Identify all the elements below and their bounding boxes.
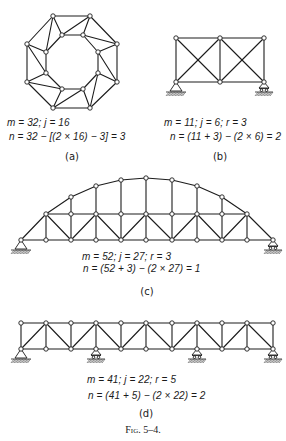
truss-member: [247, 323, 273, 349]
pin-joint-icon: [81, 33, 85, 37]
pin-joint-icon: [271, 321, 275, 325]
pin-joint-icon: [96, 71, 100, 75]
pin-joint-icon: [262, 36, 266, 40]
pin-joint-icon: [44, 321, 48, 325]
truss-member: [46, 323, 71, 349]
pin-joint-icon: [144, 238, 148, 242]
truss-member: [146, 214, 172, 240]
ground-hatch: [255, 92, 273, 96]
pin-joint-icon: [94, 347, 98, 351]
truss-member: [197, 186, 222, 197]
panel-c-equation: n = (52 + 3) − (2 × 27) = 1: [83, 263, 201, 275]
pin-joint-icon: [69, 195, 73, 199]
pin-joint-icon: [69, 321, 73, 325]
truss-member: [21, 323, 46, 349]
truss-member: [46, 16, 53, 52]
truss-member: [172, 214, 197, 240]
pin-joint-icon: [245, 212, 249, 216]
pin-joint-icon: [88, 14, 92, 18]
panel-b-label: (b): [213, 151, 227, 163]
truss-member: [90, 73, 98, 108]
truss-member: [71, 186, 96, 197]
pin-joint-icon: [25, 80, 29, 84]
pin-joint-icon: [119, 347, 123, 351]
pin-joint-icon: [44, 347, 48, 351]
truss-member: [172, 323, 197, 349]
pin-joint-icon: [81, 87, 85, 91]
pin-joint-icon: [245, 238, 249, 242]
truss-member: [83, 89, 90, 108]
truss-member: [96, 214, 121, 240]
pin-joint-icon: [174, 80, 178, 84]
pin-joint-icon: [144, 176, 148, 180]
pin-joint-icon: [44, 238, 48, 242]
truss-a: [25, 14, 119, 110]
pin-joint-icon: [220, 321, 224, 325]
pin-joint-icon: [262, 80, 266, 84]
truss-member: [172, 180, 197, 186]
truss-member: [46, 197, 71, 214]
pin-joint-icon: [19, 238, 23, 242]
truss-member: [98, 44, 117, 52]
panel-a-counts: m = 32; j = 16: [7, 117, 70, 129]
pin-joint-icon: [220, 238, 224, 242]
truss-member: [62, 16, 90, 35]
panel-d-counts: m = 41; j = 22; r = 5: [87, 374, 176, 386]
pin-joint-icon: [19, 347, 23, 351]
truss-d: [11, 321, 282, 363]
panel-c-label: (c): [140, 286, 153, 298]
panel-a-label: (a): [65, 151, 79, 163]
pin-joint-icon: [170, 212, 174, 216]
pin-joint-icon: [195, 238, 199, 242]
pin-joint-icon: [51, 14, 55, 18]
ground-hatch: [264, 250, 282, 254]
ground-hatch: [188, 359, 206, 363]
truss-member: [53, 16, 62, 35]
pin-joint-icon: [218, 36, 222, 40]
pin-joint-icon: [170, 238, 174, 242]
truss-member: [46, 214, 71, 240]
ground-hatch: [166, 92, 186, 96]
truss-member: [21, 214, 46, 240]
pin-joint-icon: [220, 195, 224, 199]
panel-d-label: (d): [139, 408, 153, 420]
pin-joint-icon: [245, 347, 249, 351]
pin-joint-icon: [69, 212, 73, 216]
pin-joint-icon: [174, 36, 178, 40]
truss-member: [90, 16, 117, 44]
pin-joint-icon: [69, 347, 73, 351]
pin-joint-icon: [119, 321, 123, 325]
truss-b: [166, 36, 273, 96]
figure-caption: Fig. 5–4.: [125, 424, 160, 436]
truss-member: [222, 214, 247, 240]
pin-joint-icon: [51, 106, 55, 110]
pin-joint-icon: [94, 212, 98, 216]
pin-joint-icon: [119, 178, 123, 182]
panel-b-equation: n = (11 + 3) − (2 × 6) = 2: [170, 131, 281, 143]
pin-joint-icon: [44, 71, 48, 75]
pin-joint-icon: [271, 347, 275, 351]
panel-a-equation: n = 32 − [(2 × 16) − 3] = 3: [9, 131, 125, 143]
pin-joint-icon: [119, 212, 123, 216]
truss-member: [71, 214, 96, 240]
pin-joint-icon: [245, 321, 249, 325]
pin-joint-icon: [96, 50, 100, 54]
truss-member: [146, 323, 172, 349]
truss-member: [27, 73, 46, 82]
pin-joint-icon: [60, 33, 64, 37]
ground-hatch: [11, 359, 31, 363]
pin-joint-icon: [220, 212, 224, 216]
truss-member: [90, 82, 117, 108]
pin-joint-icon: [144, 347, 148, 351]
truss-member: [222, 197, 247, 214]
pin-joint-icon: [25, 42, 29, 46]
pin-joint-icon: [115, 80, 119, 84]
truss-member: [121, 178, 146, 180]
truss-member: [121, 214, 146, 240]
pin-joint-icon: [19, 321, 23, 325]
panel-c-counts: m = 52; j = 27; r = 3: [82, 251, 171, 263]
truss-member: [96, 180, 121, 186]
pin-joint-icon: [94, 238, 98, 242]
pin-joint-icon: [88, 106, 92, 110]
truss-member: [146, 178, 172, 180]
